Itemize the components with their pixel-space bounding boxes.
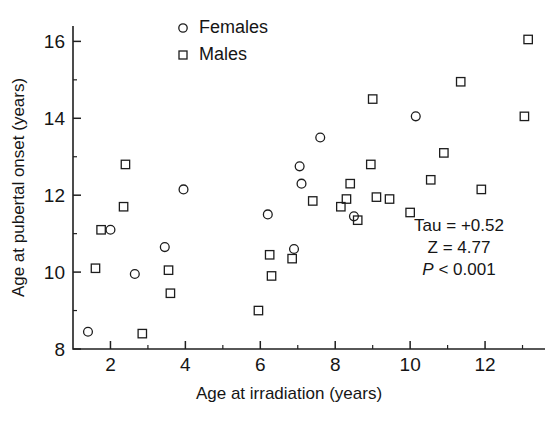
datapoint-females-6 bbox=[290, 245, 299, 254]
datapoint-males-10 bbox=[288, 254, 296, 262]
datapoint-males-24 bbox=[477, 185, 485, 193]
datapoint-males-6 bbox=[166, 289, 174, 297]
datapoint-females-0 bbox=[84, 327, 93, 336]
datapoint-females-7 bbox=[295, 162, 304, 171]
x-axis-title: Age at irradiation (years) bbox=[196, 384, 382, 403]
datapoint-females-1 bbox=[106, 225, 115, 234]
datapoint-males-1 bbox=[97, 226, 105, 234]
y-ticklabel-10: 10 bbox=[44, 262, 65, 283]
annotation-tau: Tau = +0.52 bbox=[414, 216, 504, 235]
axis-spines bbox=[73, 26, 545, 349]
datapoint-females-9 bbox=[316, 133, 325, 142]
datapoint-males-16 bbox=[367, 160, 375, 168]
annotation-z: Z = 4.77 bbox=[428, 238, 491, 257]
legend-label-females: Females bbox=[199, 17, 268, 37]
x-ticklabel-12: 12 bbox=[474, 354, 495, 375]
datapoint-females-11 bbox=[411, 112, 420, 121]
x-ticklabel-6: 6 bbox=[255, 354, 266, 375]
x-ticklabel-10: 10 bbox=[400, 354, 421, 375]
datapoint-males-15 bbox=[346, 179, 354, 187]
x-ticklabel-4: 4 bbox=[180, 354, 191, 375]
datapoint-males-0 bbox=[91, 264, 99, 272]
datapoint-males-21 bbox=[427, 176, 435, 184]
legend-label-males: Males bbox=[199, 44, 247, 64]
y-axis-title: Age at pubertal onset (years) bbox=[9, 78, 28, 297]
y-ticklabel-8: 8 bbox=[54, 339, 65, 360]
scatter-plot-figure: 24681012810121416Age at irradiation (yea… bbox=[0, 0, 553, 424]
datapoint-males-9 bbox=[267, 272, 275, 280]
datapoint-males-17 bbox=[372, 193, 380, 201]
x-ticklabel-2: 2 bbox=[105, 354, 116, 375]
datapoint-males-11 bbox=[309, 197, 317, 205]
annotation-p: P < 0.001 bbox=[422, 260, 495, 279]
datapoint-males-7 bbox=[254, 306, 262, 314]
datapoint-males-20 bbox=[406, 208, 414, 216]
y-ticklabel-14: 14 bbox=[44, 108, 66, 129]
datapoint-males-25 bbox=[520, 112, 528, 120]
x-ticklabel-8: 8 bbox=[330, 354, 341, 375]
y-ticklabel-12: 12 bbox=[44, 185, 65, 206]
series-females bbox=[84, 112, 421, 336]
datapoint-males-26 bbox=[524, 35, 532, 43]
datapoint-males-3 bbox=[121, 160, 129, 168]
datapoint-males-22 bbox=[440, 149, 448, 157]
series-males bbox=[91, 35, 532, 338]
datapoint-females-5 bbox=[263, 210, 272, 219]
datapoint-males-4 bbox=[138, 329, 146, 337]
datapoint-males-5 bbox=[164, 266, 172, 274]
datapoint-females-8 bbox=[297, 179, 306, 188]
legend-marker-males bbox=[179, 51, 187, 59]
datapoint-females-4 bbox=[179, 185, 188, 194]
legend-marker-females bbox=[179, 24, 187, 32]
y-ticklabel-16: 16 bbox=[44, 31, 65, 52]
datapoint-females-2 bbox=[130, 270, 139, 279]
datapoint-males-19 bbox=[368, 95, 376, 103]
datapoint-males-23 bbox=[457, 78, 465, 86]
datapoint-males-2 bbox=[119, 203, 127, 211]
plot-canvas: 24681012810121416Age at irradiation (yea… bbox=[0, 0, 553, 424]
datapoint-males-8 bbox=[265, 251, 273, 259]
datapoint-males-18 bbox=[385, 195, 393, 203]
datapoint-females-3 bbox=[160, 243, 169, 252]
